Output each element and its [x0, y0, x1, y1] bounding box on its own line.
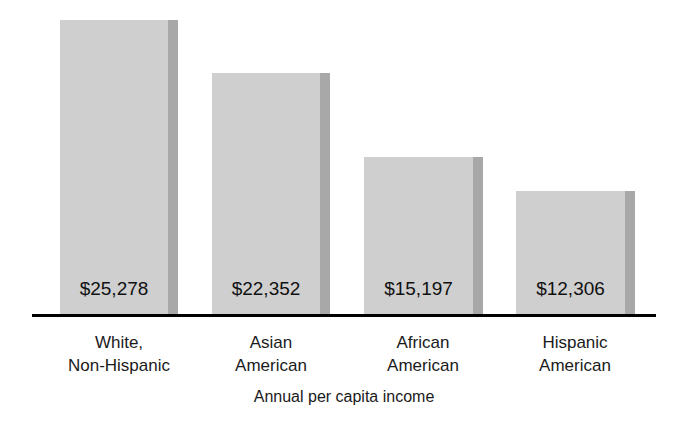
- category-label-line-2: American: [200, 354, 342, 377]
- category-label-line-2: Non-Hispanic: [48, 354, 190, 377]
- bar-white-non-hispanic: $25,278: [60, 20, 178, 316]
- category-label-line-1: African: [352, 331, 494, 354]
- plot-area: $25,278 $22,352 $15,197 $12,306: [0, 0, 688, 316]
- x-axis-line: [32, 314, 656, 317]
- bar-side-shadow: [320, 73, 330, 316]
- bar-face: [60, 20, 168, 316]
- category-label-hispanic-american: Hispanic American: [504, 331, 646, 377]
- bar-value-label: $15,197: [364, 278, 473, 300]
- bar-chart: $25,278 $22,352 $15,197 $12,306 White, N…: [0, 0, 688, 429]
- category-label-african-american: African American: [352, 331, 494, 377]
- bar-asian-american: $22,352: [212, 73, 330, 316]
- bar-hispanic-american: $12,306: [516, 191, 635, 316]
- bar-value-label: $25,278: [60, 278, 168, 300]
- bar-side-shadow: [625, 191, 635, 316]
- bar-value-label: $22,352: [212, 278, 320, 300]
- x-axis-title: Annual per capita income: [0, 388, 688, 406]
- category-label-line-2: American: [504, 354, 646, 377]
- category-label-line-1: Hispanic: [504, 331, 646, 354]
- bar-african-american: $15,197: [364, 157, 483, 316]
- bar-side-shadow: [168, 20, 178, 316]
- bar-value-label: $12,306: [516, 278, 625, 300]
- category-label-line-1: Asian: [200, 331, 342, 354]
- category-label-line-2: American: [352, 354, 494, 377]
- bar-side-shadow: [473, 157, 483, 316]
- category-label-asian-american: Asian American: [200, 331, 342, 377]
- category-label-white-non-hispanic: White, Non-Hispanic: [48, 331, 190, 377]
- category-label-line-1: White,: [48, 331, 190, 354]
